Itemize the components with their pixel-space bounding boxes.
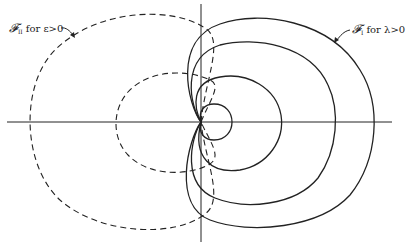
solid-curve-1 bbox=[186, 18, 374, 227]
family-i-subscript: I bbox=[361, 29, 363, 36]
family-i-label: 𝓕Ifor λ>0 bbox=[352, 23, 405, 36]
diagram-canvas bbox=[0, 0, 410, 252]
family-ii-symbol: 𝓕 bbox=[9, 21, 18, 35]
family-ii-subscript: II bbox=[18, 28, 23, 35]
family-i-leader-arrow bbox=[337, 30, 350, 40]
family-i-symbol: 𝓕 bbox=[352, 22, 361, 36]
family-i-condition: for λ>0 bbox=[366, 24, 405, 35]
solid-curve-3 bbox=[196, 76, 282, 171]
family-i-curves bbox=[186, 18, 374, 227]
family-ii-label: 𝓕IIfor ε>0 bbox=[9, 22, 63, 35]
family-ii-condition: for ε>0 bbox=[26, 23, 64, 34]
